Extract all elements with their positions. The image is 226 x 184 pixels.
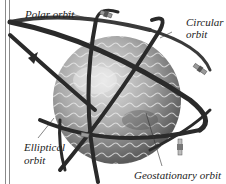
satellite-icon [193,63,208,76]
elliptical-orbit-label-line2: orbit [24,154,45,166]
circular-orbit-label-line2: orbit [186,28,207,40]
orbit-diagram: Polar orbit Circular orbit Elliptical or… [0,0,226,184]
polar-orbit-label: Polar orbit [25,8,74,20]
geostationary-orbit-label: Geostationary orbit [134,169,221,181]
circular-orbit-label-line1: Circular [186,16,224,28]
satellite-icon [177,139,183,155]
elliptical-orbit-label-line1: Elliptical [24,141,65,153]
